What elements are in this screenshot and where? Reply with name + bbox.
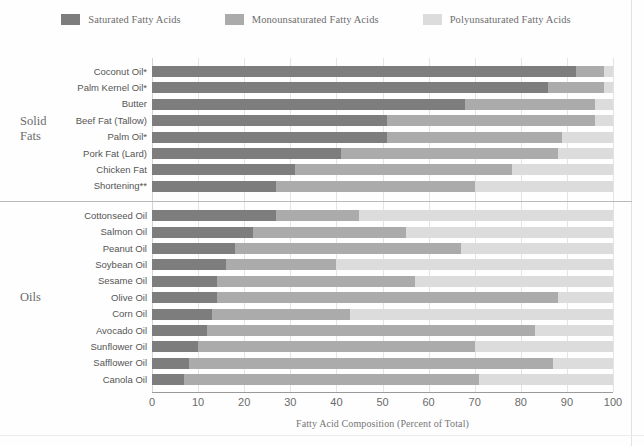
x-tick-label-10: 10 — [192, 396, 204, 408]
bar-row[interactable] — [152, 132, 613, 143]
bar-segment-polyunsaturated[interactable] — [415, 276, 613, 287]
bar-row[interactable] — [152, 243, 613, 254]
bar-segment-polyunsaturated[interactable] — [475, 181, 613, 192]
bar-segment-monounsaturated[interactable] — [184, 374, 479, 385]
bar-segment-monounsaturated[interactable] — [387, 132, 562, 143]
x-tick-label-70: 70 — [469, 396, 481, 408]
bar-row[interactable] — [152, 210, 613, 221]
x-tick-label-80: 80 — [515, 396, 527, 408]
bar-segment-polyunsaturated[interactable] — [475, 341, 613, 352]
bar-segment-polyunsaturated[interactable] — [479, 374, 613, 385]
bar-row[interactable] — [152, 148, 613, 159]
bar-segment-monounsaturated[interactable] — [198, 341, 475, 352]
category-label: Sunflower Oil — [91, 341, 148, 352]
bar-segment-saturated[interactable] — [152, 164, 295, 175]
legend-item-polyunsaturated: Polyunsaturated Fatty Acids — [423, 14, 571, 25]
bar-segment-polyunsaturated[interactable] — [558, 292, 613, 303]
bar-segment-saturated[interactable] — [152, 82, 548, 93]
x-tick-label-0: 0 — [149, 396, 155, 408]
bar-segment-polyunsaturated[interactable] — [350, 309, 613, 320]
bar-segment-polyunsaturated[interactable] — [336, 259, 613, 270]
bar-segment-monounsaturated[interactable] — [253, 227, 405, 238]
bar-row[interactable] — [152, 374, 613, 385]
bar-row[interactable] — [152, 66, 613, 77]
bar-segment-polyunsaturated[interactable] — [562, 132, 613, 143]
bar-row[interactable] — [152, 115, 613, 126]
bar-segment-saturated[interactable] — [152, 325, 207, 336]
bar-segment-polyunsaturated[interactable] — [595, 99, 613, 110]
bar-segment-monounsaturated[interactable] — [276, 181, 474, 192]
bar-segment-saturated[interactable] — [152, 259, 226, 270]
bar-row[interactable] — [152, 259, 613, 270]
bar-row[interactable] — [152, 82, 613, 93]
bar-segment-saturated[interactable] — [152, 210, 276, 221]
bar-segment-monounsaturated[interactable] — [295, 164, 512, 175]
bar-row[interactable] — [152, 164, 613, 175]
x-axis-title: Fatty Acid Composition (Percent of Total… — [152, 418, 613, 429]
bar-segment-polyunsaturated[interactable] — [604, 66, 613, 77]
bar-row[interactable] — [152, 325, 613, 336]
bar-segment-saturated[interactable] — [152, 132, 387, 143]
bar-segment-saturated[interactable] — [152, 181, 276, 192]
bar-segment-monounsaturated[interactable] — [217, 292, 558, 303]
bar-segment-saturated[interactable] — [152, 243, 235, 254]
category-label: Pork Fat (Lard) — [83, 148, 147, 159]
x-tick-label-100: 100 — [604, 396, 622, 408]
bar-segment-polyunsaturated[interactable] — [604, 82, 613, 93]
bar-segment-saturated[interactable] — [152, 341, 198, 352]
legend-label-monounsaturated: Monounsaturated Fatty Acids — [252, 14, 379, 25]
bar-segment-monounsaturated[interactable] — [548, 82, 603, 93]
bar-segment-saturated[interactable] — [152, 358, 189, 369]
bar-segment-monounsaturated[interactable] — [189, 358, 553, 369]
bar-segment-monounsaturated[interactable] — [465, 99, 594, 110]
bar-row[interactable] — [152, 341, 613, 352]
bar-segment-monounsaturated[interactable] — [207, 325, 534, 336]
bar-row[interactable] — [152, 276, 613, 287]
bar-segment-saturated[interactable] — [152, 115, 387, 126]
bar-segment-polyunsaturated[interactable] — [359, 210, 613, 221]
category-label: Corn Oil — [112, 308, 147, 319]
bar-segment-polyunsaturated[interactable] — [461, 243, 613, 254]
bar-segment-polyunsaturated[interactable] — [406, 227, 613, 238]
bar-segment-monounsaturated[interactable] — [235, 243, 461, 254]
bar-row[interactable] — [152, 99, 613, 110]
bar-segment-saturated[interactable] — [152, 66, 576, 77]
bar-segment-polyunsaturated[interactable] — [558, 148, 613, 159]
bar-segment-saturated[interactable] — [152, 276, 217, 287]
bar-row[interactable] — [152, 358, 613, 369]
bar-segment-monounsaturated[interactable] — [576, 66, 604, 77]
bar-segment-saturated[interactable] — [152, 374, 184, 385]
category-label: Salmon Oil — [101, 226, 147, 237]
bar-segment-monounsaturated[interactable] — [212, 309, 350, 320]
category-label: Chicken Fat — [96, 164, 147, 175]
bar-segment-saturated[interactable] — [152, 309, 212, 320]
category-label: Sesame Oil — [98, 275, 147, 286]
x-tick-label-40: 40 — [330, 396, 342, 408]
x-tick-label-90: 90 — [561, 396, 573, 408]
bar-segment-polyunsaturated[interactable] — [512, 164, 613, 175]
bar-segment-polyunsaturated[interactable] — [553, 358, 613, 369]
bar-segment-polyunsaturated[interactable] — [595, 115, 613, 126]
bar-row[interactable] — [152, 309, 613, 320]
bar-segment-saturated[interactable] — [152, 148, 341, 159]
bar-row[interactable] — [152, 227, 613, 238]
bar-segment-saturated[interactable] — [152, 227, 253, 238]
square-swatch-icon — [423, 14, 442, 25]
page-edge-bottom — [0, 435, 644, 436]
bar-segment-saturated[interactable] — [152, 292, 217, 303]
category-label: Olive Oil — [111, 292, 147, 303]
category-label: Safflower Oil — [93, 357, 147, 368]
bar-segment-polyunsaturated[interactable] — [535, 325, 613, 336]
bar-row[interactable] — [152, 292, 613, 303]
x-tick-label-20: 20 — [238, 396, 250, 408]
category-label: Palm Kernel Oil* — [77, 82, 147, 93]
category-label: Cottonseed Oil — [84, 210, 147, 221]
bar-segment-saturated[interactable] — [152, 99, 465, 110]
bar-row[interactable] — [152, 181, 613, 192]
bar-segment-monounsaturated[interactable] — [217, 276, 415, 287]
bar-segment-monounsaturated[interactable] — [226, 259, 337, 270]
bar-segment-monounsaturated[interactable] — [341, 148, 558, 159]
group-section-divider — [0, 201, 632, 202]
bar-segment-monounsaturated[interactable] — [387, 115, 594, 126]
bar-segment-monounsaturated[interactable] — [276, 210, 359, 221]
